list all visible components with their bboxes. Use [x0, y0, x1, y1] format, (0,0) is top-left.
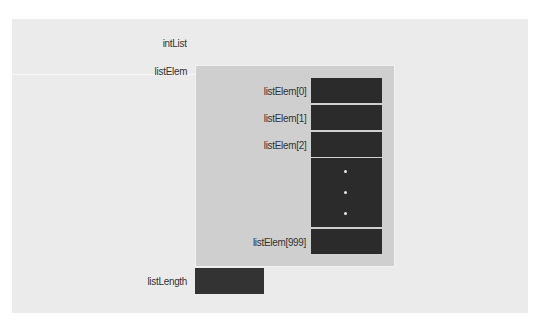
element-label-1: listElem[1]: [263, 112, 306, 124]
ellipsis-dot-icon: [344, 170, 347, 173]
array-cell-1: [311, 105, 382, 130]
list-elem-label: listElem: [155, 65, 187, 77]
element-label-0: listElem[0]: [263, 85, 306, 97]
ellipsis-dot-icon: [344, 191, 347, 194]
struct-variable-label: intList: [163, 37, 187, 49]
array-cell-ellipsis: [311, 158, 382, 227]
array-cell-0: [311, 78, 382, 103]
list-length-label: listLength: [147, 275, 187, 287]
array-cell-2: [311, 132, 382, 157]
array-cell-999: [311, 229, 382, 254]
list-length-cell: [195, 268, 264, 294]
ellipsis-dot-icon: [344, 212, 347, 215]
element-label-2: listElem[2]: [263, 139, 306, 151]
element-label-999: listElem[999]: [253, 236, 306, 248]
